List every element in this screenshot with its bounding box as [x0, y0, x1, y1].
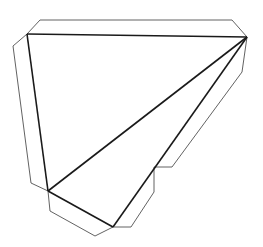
- edge-c-d: [48, 191, 113, 227]
- pyramid-net-diagram: [0, 0, 263, 247]
- bottom-flap: [48, 191, 113, 236]
- edge-b-d: [113, 37, 247, 227]
- edge-a-c: [27, 34, 48, 191]
- fold-lines-group: [27, 34, 247, 227]
- edge-b-c: [48, 37, 247, 191]
- edge-a-b: [27, 34, 247, 37]
